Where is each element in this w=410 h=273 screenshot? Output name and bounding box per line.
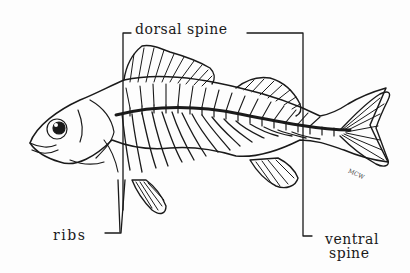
label-ventral-spine-line1: ventral <box>325 232 379 246</box>
diagram-canvas: dorsal spine ribs ventral spine MCW <box>0 0 410 273</box>
label-ribs: ribs <box>53 228 86 242</box>
label-dorsal-spine: dorsal spine <box>135 22 227 36</box>
ribs-leader-lines <box>105 180 125 233</box>
ribs <box>122 112 320 172</box>
second-dorsal-fin <box>236 77 301 116</box>
vertebral-column <box>116 107 350 130</box>
label-ventral-spine-line2: spine <box>329 246 379 260</box>
label-ventral-spine: ventral spine <box>325 232 379 260</box>
anal-fin <box>250 158 298 188</box>
fish-body-outline <box>30 76 388 163</box>
